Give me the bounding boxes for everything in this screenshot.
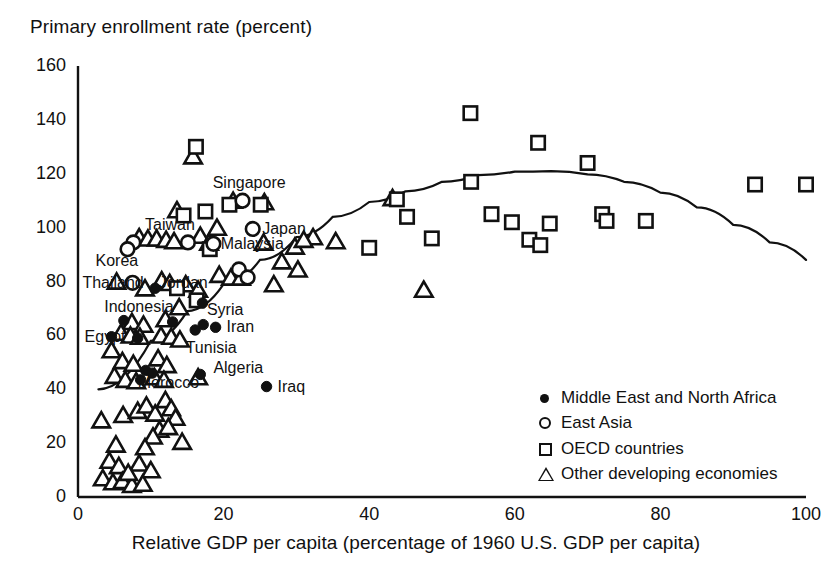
- data-point-open-circle: [207, 237, 221, 251]
- legend-label: East Asia: [558, 413, 632, 433]
- data-point-open-square: [464, 175, 477, 188]
- legend: Middle East and North AfricaEast AsiaOEC…: [536, 385, 826, 487]
- data-point-open-square: [464, 106, 477, 119]
- data-point-open-triangle: [415, 282, 433, 297]
- data-point-open-square: [748, 178, 761, 191]
- data-point-filled-circle: [132, 333, 142, 343]
- point-label: Syria: [207, 301, 243, 319]
- data-point-open-triangle: [327, 233, 345, 248]
- data-point-open-triangle: [107, 436, 125, 451]
- open-square-icon-glyph: [539, 443, 552, 456]
- data-point-open-circle: [181, 236, 195, 250]
- data-point-open-square: [425, 232, 438, 245]
- legend-item[interactable]: Other developing economies: [536, 462, 826, 488]
- data-point-open-square: [223, 198, 236, 211]
- data-point-open-circle: [246, 222, 260, 236]
- legend-label: OECD countries: [558, 439, 684, 459]
- point-label: Taiwan: [145, 216, 195, 234]
- data-point-open-square: [254, 198, 267, 211]
- data-point-filled-circle: [119, 315, 129, 325]
- y-tick-label: 140: [22, 109, 66, 130]
- data-point-open-triangle: [114, 407, 131, 422]
- x-tick-label: 0: [48, 504, 108, 525]
- data-point-open-square: [581, 156, 594, 169]
- data-point-open-circle: [236, 194, 250, 208]
- legend-label: Other developing economies: [558, 464, 777, 484]
- data-point-open-square: [600, 214, 613, 227]
- data-point-open-circle: [241, 271, 255, 285]
- data-point-open-square: [505, 216, 518, 229]
- y-tick-label: 40: [22, 378, 66, 399]
- y-tick-label: 100: [22, 217, 66, 238]
- point-label: Indonesia: [104, 298, 173, 316]
- point-label: Iran: [227, 318, 255, 336]
- data-point-open-triangle: [173, 434, 191, 449]
- data-point-open-triangle: [208, 220, 226, 235]
- point-label: Korea: [96, 252, 139, 270]
- data-point-open-square: [543, 217, 556, 230]
- data-point-open-square: [400, 210, 413, 223]
- data-point-open-square: [531, 136, 544, 149]
- legend-label: Middle East and North Africa: [558, 388, 776, 408]
- open-square-icon: [536, 438, 558, 460]
- point-label: Morocco: [138, 374, 199, 392]
- x-tick-label: 60: [485, 504, 545, 525]
- data-point-filled-circle: [167, 317, 177, 327]
- filled-circle-icon-glyph: [540, 394, 549, 403]
- data-point-open-square: [363, 241, 376, 254]
- data-point-open-triangle: [265, 276, 283, 291]
- x-axis-title: Relative GDP per capita (percentage of 1…: [0, 532, 832, 554]
- open-triangle-icon: [536, 463, 558, 485]
- data-point-filled-circle: [210, 322, 220, 332]
- point-label: Singapore: [213, 174, 286, 192]
- data-point-open-triangle: [93, 412, 111, 427]
- point-label: Malaysia: [221, 235, 284, 253]
- data-point-open-square: [199, 205, 212, 218]
- data-point-open-square: [639, 214, 652, 227]
- data-point-open-square: [799, 178, 812, 191]
- point-label: Jordan: [159, 274, 208, 292]
- open-triangle-icon-glyph: [538, 467, 554, 481]
- point-label: Egypt: [85, 328, 126, 346]
- point-label: Algeria: [213, 359, 263, 377]
- y-tick-label: 160: [22, 55, 66, 76]
- open-circle-icon-glyph: [539, 417, 551, 429]
- x-tick-label: 40: [339, 504, 399, 525]
- legend-item[interactable]: East Asia: [536, 411, 826, 437]
- x-tick-label: 20: [194, 504, 254, 525]
- data-point-filled-circle: [261, 381, 271, 391]
- y-tick-label: 120: [22, 163, 66, 184]
- point-label: Iraq: [278, 378, 306, 396]
- data-point-open-square: [189, 140, 202, 153]
- open-circle-icon: [536, 412, 558, 434]
- data-point-filled-circle: [190, 325, 200, 335]
- chart-figure: Primary enrollment rate (percent) 020406…: [0, 0, 832, 578]
- filled-circle-icon: [536, 387, 558, 409]
- data-point-open-square: [390, 193, 403, 206]
- y-tick-label: 20: [22, 432, 66, 453]
- x-tick-label: 80: [630, 504, 690, 525]
- x-tick-label: 100: [776, 504, 832, 525]
- legend-item[interactable]: Middle East and North Africa: [536, 385, 826, 411]
- data-point-open-square: [534, 238, 547, 251]
- legend-item[interactable]: OECD countries: [536, 436, 826, 462]
- point-label: Thailand: [82, 274, 143, 292]
- y-tick-label: 80: [22, 271, 66, 292]
- data-point-open-triangle: [130, 455, 148, 470]
- data-point-open-square: [485, 207, 498, 220]
- point-label: Tunisia: [186, 339, 237, 357]
- y-tick-label: 60: [22, 324, 66, 345]
